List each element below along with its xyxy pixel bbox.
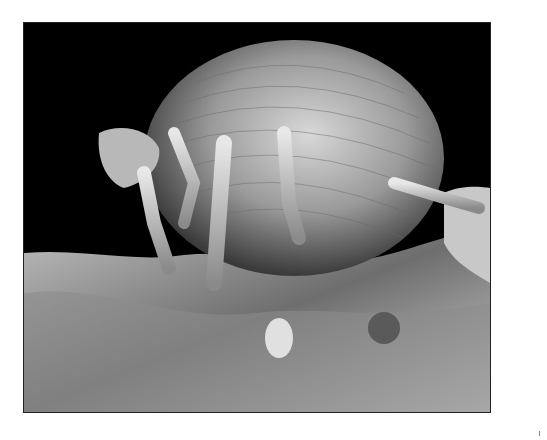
dust-mite-illustration	[24, 23, 490, 412]
sem-micrograph	[23, 22, 491, 413]
corner-tick-mark	[539, 431, 540, 436]
